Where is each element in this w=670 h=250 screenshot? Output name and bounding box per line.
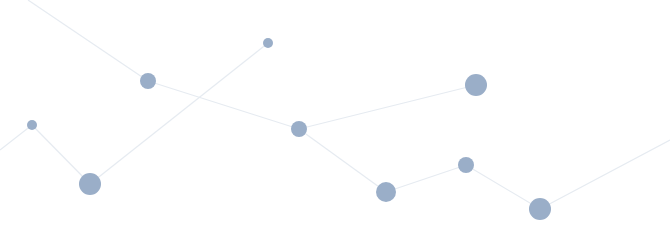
connector-line	[386, 165, 466, 192]
node-dot	[140, 73, 156, 89]
node-dot	[27, 120, 37, 130]
connector-line	[299, 85, 476, 129]
connector-line	[466, 165, 540, 209]
node-dot	[291, 121, 307, 137]
node-dot	[263, 38, 273, 48]
connector-line	[299, 129, 386, 192]
node-dot	[376, 182, 396, 202]
node-dot	[465, 74, 487, 96]
edges-layer	[0, 0, 670, 209]
network-graphic	[0, 0, 670, 250]
connector-line	[90, 43, 268, 184]
connector-line	[540, 140, 670, 209]
nodes-layer	[27, 38, 551, 220]
network-svg	[0, 0, 670, 250]
connector-line	[0, 125, 32, 150]
connector-line	[32, 125, 90, 184]
node-dot	[458, 157, 474, 173]
connector-line	[28, 0, 148, 81]
connector-line	[148, 81, 299, 129]
node-dot	[79, 173, 101, 195]
node-dot	[529, 198, 551, 220]
